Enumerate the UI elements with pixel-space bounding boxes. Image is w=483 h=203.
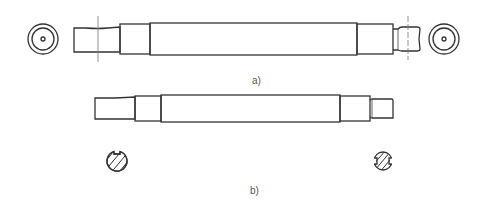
right-shoulder xyxy=(357,24,393,54)
left-shoulder xyxy=(135,96,161,121)
right-journal xyxy=(370,99,393,118)
main-body xyxy=(161,95,340,122)
left-end-view-icon xyxy=(28,24,58,54)
left-shoulder xyxy=(120,24,150,54)
right-end-view-icon xyxy=(429,24,459,54)
main-body xyxy=(150,23,357,55)
right-double-keyway-section-icon xyxy=(372,150,397,175)
view-b-label: b) xyxy=(250,185,259,196)
view-b: b) xyxy=(95,95,397,196)
left-journal xyxy=(74,27,120,52)
right-shoulder xyxy=(340,96,370,121)
shaft-drawing: a) xyxy=(0,0,483,203)
view-a: a) xyxy=(28,16,459,86)
right-journal-grooved xyxy=(393,27,420,51)
left-journal xyxy=(95,97,135,119)
left-keyway-section-icon xyxy=(98,146,134,178)
view-a-label: a) xyxy=(252,75,261,86)
